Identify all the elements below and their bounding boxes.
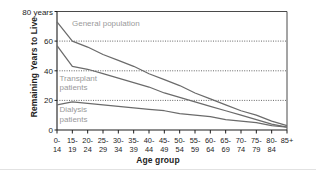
x-tick-label-bottom: 29 [99, 145, 107, 154]
y-tick-label: 60 [44, 37, 53, 46]
x-tick-label-top: 70- [236, 136, 247, 145]
x-tick-label-top: 45- [159, 136, 170, 145]
x-tick-label-bottom: 69 [222, 145, 230, 154]
x-tick-label-top: 85+ [281, 136, 294, 145]
x-tick-label-top: 20- [82, 136, 93, 145]
x-tick-label-bottom: 64 [206, 145, 214, 154]
x-tick-label-top: 35- [128, 136, 139, 145]
x-tick-label-top: 30- [113, 136, 124, 145]
y-tick-label: 20 [44, 96, 53, 105]
x-tick-label-bottom: 44 [145, 145, 153, 154]
x-tick-label-top: 0- [54, 136, 61, 145]
x-tick-label-top: 55- [190, 136, 201, 145]
line-chart: 80 years6040200 0-1415-1920-2425-2930-34… [0, 0, 316, 172]
label-general-population: General population [72, 19, 140, 28]
x-tick-label-bottom: 74 [237, 145, 245, 154]
label-transplant-line1: Transplant [60, 74, 98, 83]
x-tick-label-top: 50- [174, 136, 185, 145]
y-tick-label: 0 [49, 126, 54, 135]
x-tick-label-bottom: 84 [268, 145, 276, 154]
label-dialysis-line1: Dialysis [60, 105, 88, 114]
x-tick-label-top: 40- [144, 136, 155, 145]
x-tick-label-bottom: 59 [191, 145, 199, 154]
x-tick-label-bottom: 54 [176, 145, 184, 154]
series-line-transplant-patients [57, 46, 287, 127]
x-tick-label-top: 75- [251, 136, 262, 145]
y-tick-label: 80 years [22, 8, 53, 17]
x-tick-label-top: 15- [67, 136, 78, 145]
x-tick-label-bottom: 49 [160, 145, 168, 154]
x-tick-label-top: 65- [220, 136, 231, 145]
x-tick-label-bottom: 34 [114, 145, 122, 154]
x-tick-label-bottom: 14 [53, 145, 61, 154]
x-tick-label-bottom: 19 [68, 145, 76, 154]
label-transplant-line2: patients [60, 83, 88, 92]
x-tick-label-top: 80- [266, 136, 277, 145]
y-tick-label: 40 [44, 67, 53, 76]
x-tick-label-bottom: 79 [252, 145, 260, 154]
y-tick-labels: 80 years6040200 [22, 8, 53, 136]
x-tick-label-top: 60- [205, 136, 216, 145]
x-tick-labels: 0-1415-1920-2425-2930-3435-3940-4445-495… [53, 136, 293, 154]
x-tick-label-top: 25- [98, 136, 109, 145]
x-tick-label-bottom: 39 [130, 145, 138, 154]
label-dialysis-line2: patients [60, 115, 88, 124]
x-tick-label-bottom: 24 [84, 145, 92, 154]
